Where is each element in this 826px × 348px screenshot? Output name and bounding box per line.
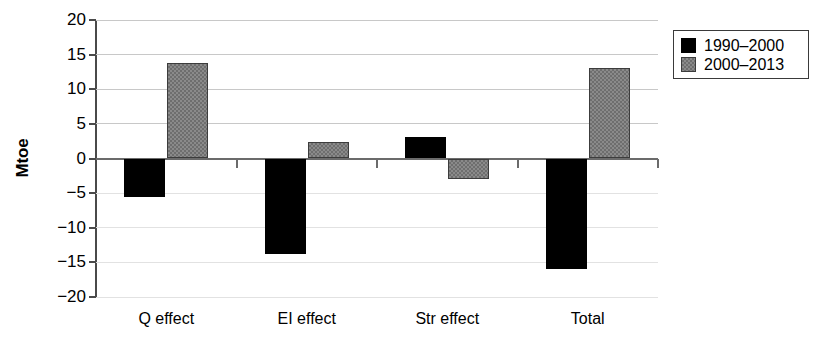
x-axis-tick-mark: [657, 159, 659, 168]
y-axis-tick-mark: [89, 158, 96, 160]
plot-area: [96, 20, 658, 297]
bar-chart-figure: Mtoe 20151050−5−10−15−20 1990–20002000–2…: [0, 0, 826, 348]
y-axis-tick-mark: [89, 261, 96, 263]
y-axis-tick-mark: [89, 192, 96, 194]
gridline: [96, 20, 658, 21]
y-axis-tick-label: 15: [40, 46, 86, 63]
y-axis-tick-label: −5: [40, 184, 86, 201]
bottom-axis-line: [96, 297, 658, 298]
y-axis-title: Mtoe: [13, 113, 33, 203]
y-axis-tick-label: 10: [40, 80, 86, 97]
bar: [589, 68, 630, 159]
x-axis-tick-label: Q effect: [138, 310, 194, 328]
y-axis-tick-labels: 20151050−5−10−15−20: [36, 0, 86, 348]
y-axis-tick-label: 0: [40, 150, 86, 167]
black-square-swatch: [681, 38, 696, 53]
x-axis-tick-mark: [517, 159, 519, 168]
legend-item-label: 1990–2000: [704, 37, 784, 55]
y-axis-tick-label: 20: [40, 11, 86, 28]
bar: [167, 63, 208, 159]
chart-legend: 1990–20002000–2013: [673, 30, 809, 79]
y-axis-tick-mark: [89, 19, 96, 21]
x-axis-tick-mark: [236, 159, 238, 168]
y-axis-tick-mark: [89, 54, 96, 56]
x-axis-tick-mark: [376, 159, 378, 168]
legend-item: 1990–2000: [681, 36, 801, 55]
y-axis-tick-label: −15: [40, 253, 86, 270]
bar: [546, 159, 587, 270]
x-axis-tick-label: Total: [571, 310, 605, 328]
y-axis-tick-label: −10: [40, 219, 86, 236]
x-axis-tick-label: Str effect: [415, 310, 479, 328]
legend-item: 2000–2013: [681, 55, 801, 74]
gridline: [96, 54, 658, 55]
x-axis-tick-label: EI effect: [278, 310, 336, 328]
bar: [448, 159, 489, 180]
y-axis-tick-mark: [89, 88, 96, 90]
y-axis-tick-mark: [89, 296, 96, 298]
gray-square-swatch: [681, 57, 696, 72]
legend-item-label: 2000–2013: [704, 56, 784, 74]
bar: [308, 142, 349, 159]
y-axis-tick-mark: [89, 227, 96, 229]
bar: [405, 137, 446, 158]
y-axis-tick-label: −20: [40, 288, 86, 305]
bar: [124, 159, 165, 197]
y-axis-tick-label: 5: [40, 115, 86, 132]
y-axis-tick-mark: [89, 123, 96, 125]
bar: [265, 159, 306, 255]
